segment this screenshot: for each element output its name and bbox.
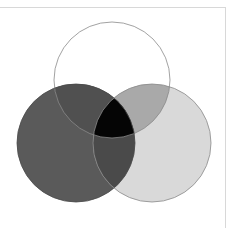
venn-diagram (0, 0, 230, 228)
